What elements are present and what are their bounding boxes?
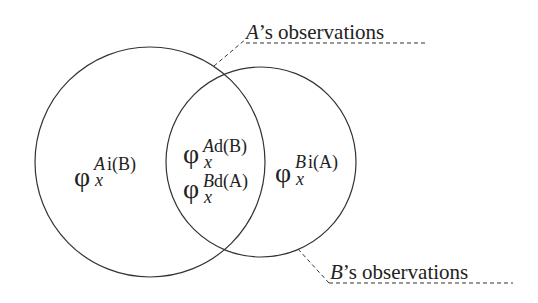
formula-b-only: φ Bi(A) x [275,152,338,189]
formula-intersection-top: φ Ad(B) x [183,136,247,172]
svg-text:x: x [203,152,212,172]
venn-diagram: A’s observations B’s observations φ Ai(B… [0,0,538,303]
svg-text:φ: φ [275,157,291,188]
callout-b-leader [298,249,329,283]
callout-a-leader [214,39,246,66]
svg-text:φ: φ [183,138,199,169]
callout-b-label: B’s observations [330,260,468,284]
svg-text:φ: φ [74,161,90,192]
svg-text:x: x [295,169,304,189]
svg-text:x: x [94,170,103,190]
svg-text:x: x [203,187,212,207]
formula-intersection-bottom: φ Bd(A) x [183,171,248,207]
callout-a-label: A’s observations [244,20,384,44]
circle-a-observations [35,47,265,277]
formula-a-only: φ Ai(B) x [74,154,136,192]
svg-text:φ: φ [183,173,199,204]
